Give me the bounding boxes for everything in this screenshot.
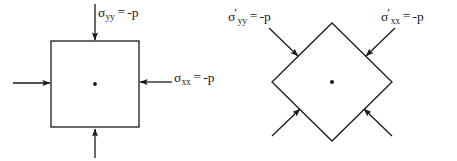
- sigma-yy-value: -p: [127, 5, 138, 20]
- sigma-yy-prime-subscript: yy: [238, 16, 247, 26]
- diamond-lower-left-arrow: [272, 109, 300, 136]
- sigma-xx-prime-subscript: xx: [391, 16, 400, 26]
- diamond-center-dot: [330, 80, 334, 84]
- diamond-lower-right-arrow: [364, 109, 392, 136]
- left-square-group: [13, 4, 172, 158]
- diamond-upper-left-arrow: [269, 28, 298, 56]
- equals-sign: =: [247, 8, 260, 23]
- label-sigma-yy-prime: σ'yy=-p: [228, 10, 271, 24]
- label-sigma-yy: σyy=-p: [98, 6, 139, 20]
- equals-sign: =: [191, 69, 204, 84]
- sigma-xx-value: -p: [203, 70, 214, 85]
- prime-mark: ': [387, 6, 389, 20]
- sigma-yy-prime-value: -p: [259, 9, 270, 24]
- sigma-xx-prime-value: -p: [412, 9, 423, 24]
- equals-sign: =: [115, 4, 128, 19]
- label-sigma-xx-prime: σ'xx=-p: [381, 10, 424, 24]
- sigma-xx-subscript: xx: [181, 77, 190, 87]
- equals-sign: =: [400, 8, 413, 23]
- label-sigma-xx: σxx=-p: [174, 71, 215, 85]
- prime-mark: ': [234, 6, 236, 20]
- stress-element-figure: σyy=-p σxx=-p σ'yy=-p σ'xx=-p: [0, 0, 457, 161]
- sigma-yy-subscript: yy: [105, 12, 114, 22]
- right-diamond-group: [269, 23, 395, 141]
- figure-vector-canvas: [0, 0, 457, 161]
- diamond-upper-right-arrow: [366, 28, 395, 56]
- square-center-dot: [93, 82, 97, 86]
